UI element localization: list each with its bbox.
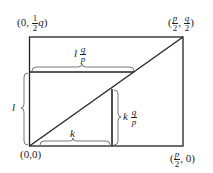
label-text: , 0) <box>180 152 195 164</box>
label-bottom-right: (p2, 0) <box>170 150 195 169</box>
label-top-left: (0, 12q) <box>17 14 47 33</box>
label-brace-left: l <box>12 102 15 113</box>
label-text: ) <box>44 16 48 28</box>
label-text: ) <box>190 16 194 28</box>
brace-bottom <box>40 138 110 145</box>
var-k: k <box>123 110 128 122</box>
label-origin: (0,0) <box>20 149 41 160</box>
brace-right <box>114 90 121 145</box>
fraction: qp <box>80 45 87 64</box>
frac-den: p <box>131 118 138 127</box>
label-text: (0, <box>17 16 32 28</box>
var-l: l <box>74 47 77 59</box>
label-brace-right: k qp <box>123 108 137 127</box>
fraction: qp <box>131 108 138 127</box>
label-brace-bottom: k <box>70 128 75 139</box>
label-top-right: (p2, q2) <box>168 14 194 33</box>
label-brace-top: l qp <box>74 45 86 64</box>
brace-top <box>32 64 134 71</box>
brace-left <box>21 73 28 145</box>
diagonal-line <box>30 37 184 146</box>
frac-den: p <box>80 55 87 64</box>
